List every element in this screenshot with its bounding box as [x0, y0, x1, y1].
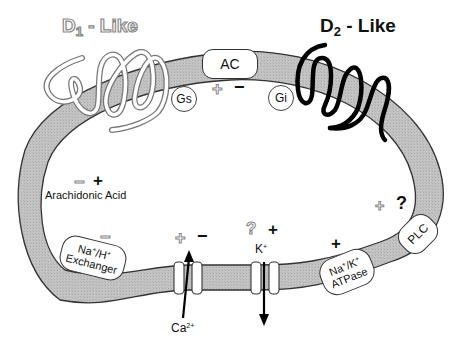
ca-ion-charge: 2+	[186, 322, 194, 329]
ac-d1-stimulation-sign: +	[212, 80, 223, 98]
gs-protein: Gs	[171, 86, 197, 112]
d1-label-suffix: - Like	[83, 15, 138, 36]
gi-label: Gi	[275, 91, 287, 105]
k-d2-sign: +	[268, 221, 278, 238]
arachidonic-acid-label: Arachidonic Acid	[45, 190, 126, 201]
plc-d1-question-sign: ?	[396, 194, 407, 212]
k-d1-question-sign: ?	[246, 220, 256, 237]
plc-d1-sign: +	[375, 198, 384, 214]
ca-ion-label: Ca2+	[171, 322, 194, 334]
ca-d1-sign: +	[175, 229, 186, 247]
ac-label: AC	[220, 57, 239, 72]
d2-label-base: D	[320, 15, 334, 36]
d1-like-label: D1 - Like	[62, 16, 138, 38]
d2-label-suffix: - Like	[341, 15, 396, 36]
k-ion-charge: +	[263, 243, 267, 250]
ca-d2-sign: −	[197, 227, 208, 245]
d2-label-subscript: 2	[334, 24, 341, 39]
adenylyl-cyclase: AC	[202, 49, 258, 79]
gi-protein: Gi	[268, 85, 294, 111]
d1-label-base: D	[62, 15, 76, 36]
d1-label-subscript: 1	[76, 24, 83, 39]
ac-d2-inhibition-sign: −	[234, 78, 245, 96]
atpase-d2-sign: +	[331, 235, 341, 252]
ca-ion-symbol: Ca	[171, 321, 186, 335]
plc-label: PLC	[405, 221, 430, 246]
d2-like-label: D2 - Like	[320, 16, 396, 38]
k-ion-label: K+	[255, 243, 267, 255]
aa-d2-sign: +	[93, 172, 103, 189]
gs-label: Gs	[176, 92, 191, 106]
k-ion-symbol: K	[255, 242, 263, 256]
